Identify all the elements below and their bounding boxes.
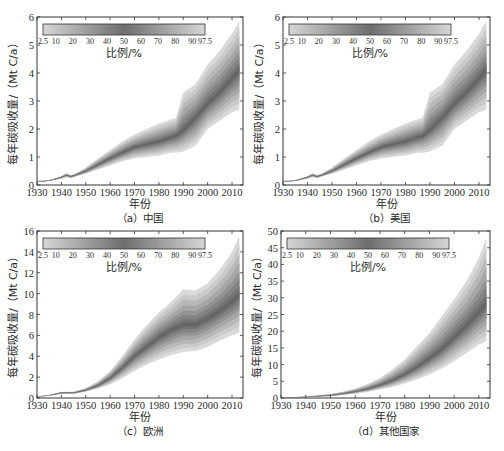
colorbar-tick: 10 <box>298 37 306 46</box>
colorbar-tick: 2.5 <box>284 37 294 46</box>
y-tick-label: 12 <box>24 268 35 279</box>
x-tick-label: 1990 <box>173 400 194 411</box>
y-axis-label: 每年碳吸收量/（Mt C/a） <box>250 251 264 378</box>
y-axis-label: 每年碳吸收量/（Mt C/a） <box>6 37 20 164</box>
x-tick-label: 1980 <box>394 400 415 411</box>
y-tick-label: 10 <box>268 360 279 371</box>
y-tick-label: 6 <box>29 330 34 341</box>
colorbar-tick: 40 <box>103 37 111 46</box>
y-axis-label: 每年碳吸收量/（Mt C/a） <box>6 251 20 378</box>
colorbar-tick: 50 <box>364 251 372 260</box>
colorbar-tick: 20 <box>69 37 77 46</box>
y-tick-label: 8 <box>29 310 34 321</box>
y-tick-label: 25 <box>268 310 279 321</box>
colorbar-tick: 97.5 <box>444 37 458 46</box>
colorbar-tick: 20 <box>315 37 323 46</box>
x-tick-label: 1990 <box>419 187 440 198</box>
colorbar-tick: 30 <box>332 37 340 46</box>
x-tick-label: 2010 <box>468 400 489 411</box>
x-tick-label: 1960 <box>100 187 121 198</box>
x-tick-label: 2000 <box>197 400 218 411</box>
colorbar-tick: 80 <box>171 251 179 260</box>
y-tick-label: 1 <box>29 152 34 163</box>
y-tick-label: 20 <box>268 326 279 337</box>
y-tick-label: 1 <box>275 152 280 163</box>
colorbar-tick: 10 <box>52 251 60 260</box>
x-tick-label: 1950 <box>320 400 341 411</box>
colorbar-tick: 90 <box>188 37 196 46</box>
y-tick-label: 2 <box>275 124 280 135</box>
y-tick-label: 16 <box>24 226 35 237</box>
y-tick-label: 5 <box>273 376 278 387</box>
panel-c-europe: 1930194019501960197019801990200020100246… <box>6 226 243 437</box>
colorbar-label: 比例/% <box>352 46 388 60</box>
y-axis-label: 每年碳吸收量/（Mt C/a） <box>252 37 266 164</box>
y-tick-label: 3 <box>275 96 280 107</box>
colorbar-tick: 60 <box>383 37 391 46</box>
y-tick-label: 3 <box>29 96 34 107</box>
y-tick-label: 6 <box>275 12 280 23</box>
colorbar-tick: 50 <box>120 251 128 260</box>
colorbar-tick: 30 <box>86 251 94 260</box>
colorbar-tick: 40 <box>347 251 355 260</box>
x-tick-label: 2010 <box>222 187 243 198</box>
panel-d-other-countries: 1930194019501960197019801990200020100510… <box>250 226 490 437</box>
colorbar-label: 比例/% <box>106 260 142 274</box>
colorbar-tick: 97.5 <box>442 251 456 260</box>
colorbar-tick: 70 <box>398 251 406 260</box>
colorbar-tick: 30 <box>330 251 338 260</box>
colorbar-tick: 2.5 <box>38 37 48 46</box>
x-tick-label: 1970 <box>124 400 145 411</box>
x-tick-label: 1980 <box>395 187 416 198</box>
colorbar: 2.510203040506070809097.5比例/% <box>282 238 456 274</box>
colorbar-tick: 50 <box>120 37 128 46</box>
x-tick-label: 1950 <box>75 400 96 411</box>
panel-caption: （d）其他国家 <box>352 425 420 437</box>
colorbar-tick: 80 <box>171 37 179 46</box>
y-tick-label: 14 <box>24 247 35 258</box>
y-tick-label: 10 <box>24 289 35 300</box>
y-tick-label: 5 <box>275 40 280 51</box>
x-axis-label: 年份 <box>376 197 398 211</box>
x-tick-label: 1960 <box>345 400 366 411</box>
colorbar-tick: 40 <box>103 251 111 260</box>
x-axis-label: 年份 <box>129 197 151 211</box>
y-tick-label: 4 <box>275 68 281 79</box>
y-tick-label: 15 <box>268 343 279 354</box>
y-tick-label: 4 <box>29 68 35 79</box>
x-tick-label: 1940 <box>51 400 72 411</box>
colorbar-tick: 90 <box>432 251 440 260</box>
x-tick-label: 1960 <box>346 187 367 198</box>
colorbar-tick: 50 <box>366 37 374 46</box>
y-tick-label: 40 <box>268 259 279 270</box>
panel-caption: （c）欧洲 <box>117 425 163 437</box>
x-tick-label: 1950 <box>75 187 96 198</box>
x-tick-label: 1980 <box>148 187 169 198</box>
colorbar-tick: 90 <box>434 37 442 46</box>
colorbar: 2.510203040506070809097.5比例/% <box>38 24 212 60</box>
colorbar-label: 比例/% <box>350 260 386 274</box>
x-tick-label: 1990 <box>173 187 194 198</box>
x-tick-label: 1970 <box>124 187 145 198</box>
colorbar-tick: 2.5 <box>282 251 292 260</box>
y-tick-label: 35 <box>268 276 279 287</box>
x-tick-label: 1950 <box>321 187 342 198</box>
x-tick-label: 1940 <box>51 187 72 198</box>
x-tick-label: 1960 <box>100 400 121 411</box>
colorbar-tick: 70 <box>154 37 162 46</box>
colorbar: 2.510203040506070809097.5比例/% <box>284 24 458 60</box>
y-tick-label: 0 <box>275 180 280 191</box>
x-tick-label: 1990 <box>419 400 440 411</box>
y-tick-label: 4 <box>29 351 35 362</box>
colorbar-tick: 10 <box>296 251 304 260</box>
x-tick-label: 1980 <box>148 400 169 411</box>
colorbar-tick: 70 <box>154 251 162 260</box>
figure: 1930194019501960197019801990200020100123… <box>0 0 504 451</box>
colorbar-tick: 90 <box>188 251 196 260</box>
panel-b-usa: 1930194019501960197019801990200020100123… <box>252 12 490 224</box>
colorbar-tick: 60 <box>137 37 145 46</box>
colorbar-tick: 97.5 <box>198 251 212 260</box>
colorbar-tick: 97.5 <box>198 37 212 46</box>
y-tick-label: 2 <box>29 372 34 383</box>
x-tick-label: 1970 <box>369 400 390 411</box>
